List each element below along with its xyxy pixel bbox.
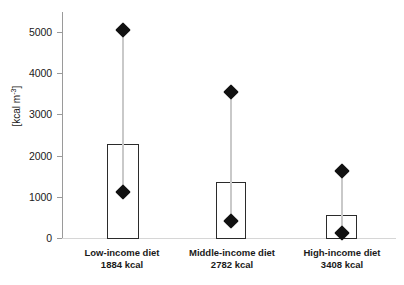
series-group-high-income [0,0,404,285]
x-category-label-low-income-title: Low-income diet [85,247,160,258]
marker-high-high-income [334,163,350,179]
x-category-label-middle-income-sub: 2782 kcal [173,259,291,271]
chart-figure: [kcal m-3] 0 1000 2000 3000 4000 5000 [0,0,404,285]
x-category-label-low-income: Low-income diet 1884 kcal [63,247,181,271]
x-category-label-low-income-sub: 1884 kcal [63,259,181,271]
x-category-label-high-income: High-income diet 3408 kcal [286,247,398,271]
x-category-label-high-income-sub: 3408 kcal [286,259,398,271]
x-category-label-middle-income: Middle-income diet 2782 kcal [173,247,291,271]
x-category-label-middle-income-title: Middle-income diet [189,247,275,258]
x-category-label-high-income-title: High-income diet [303,247,380,258]
